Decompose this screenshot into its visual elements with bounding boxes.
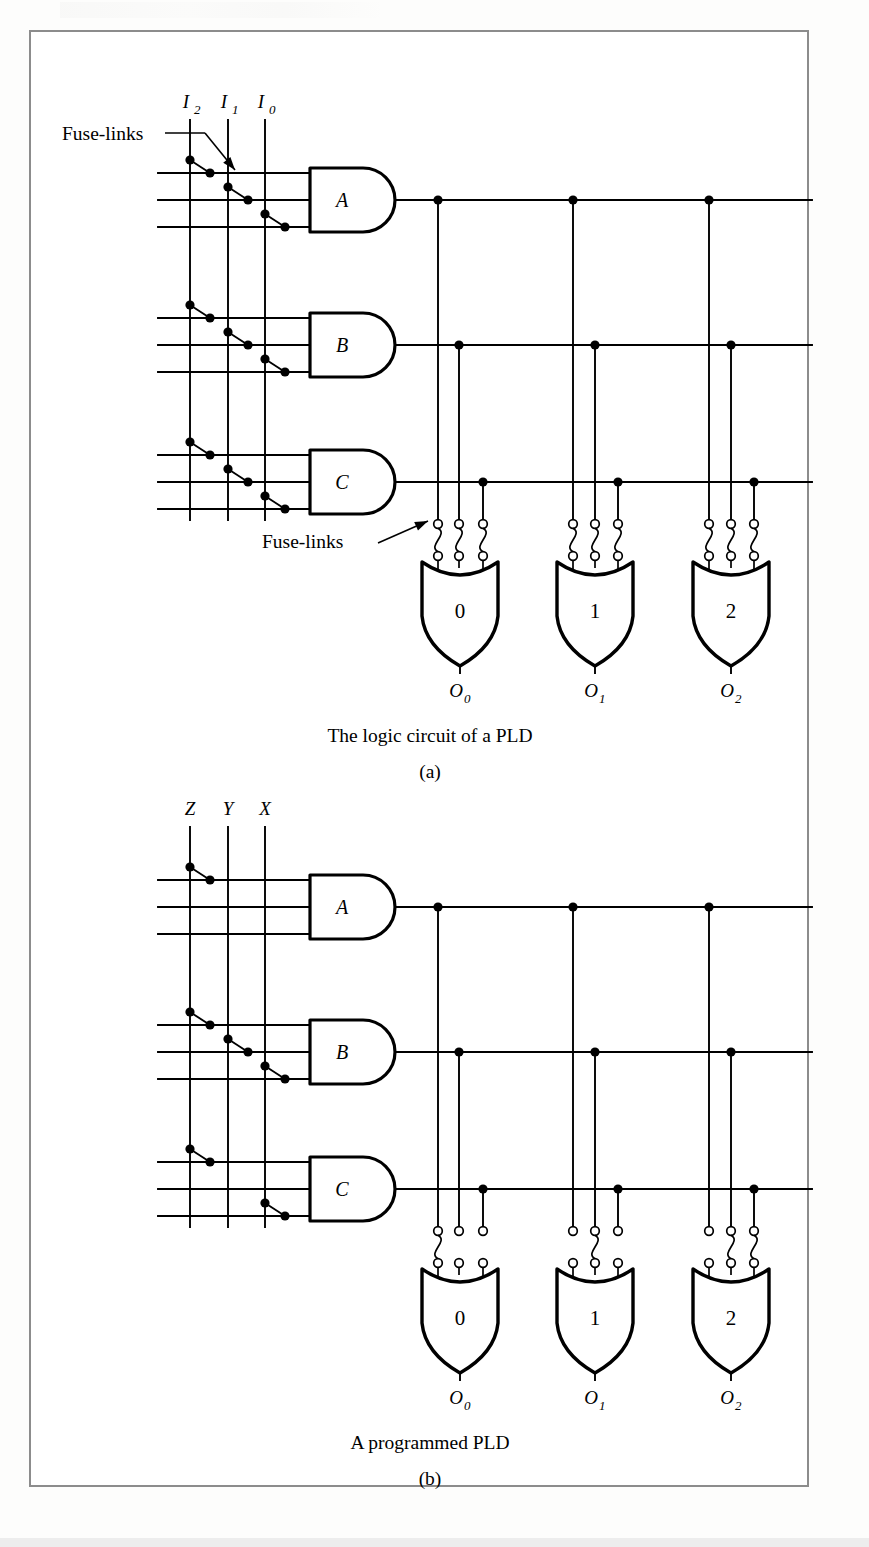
page-bottom-strip: [0, 1538, 869, 1547]
page-canvas: I2I1I0ABC0O01O12O2Fuse-linksFuse-linksTh…: [0, 0, 869, 1547]
scan-artifact-top: [60, 2, 380, 18]
figure-border-box: [29, 30, 809, 1487]
